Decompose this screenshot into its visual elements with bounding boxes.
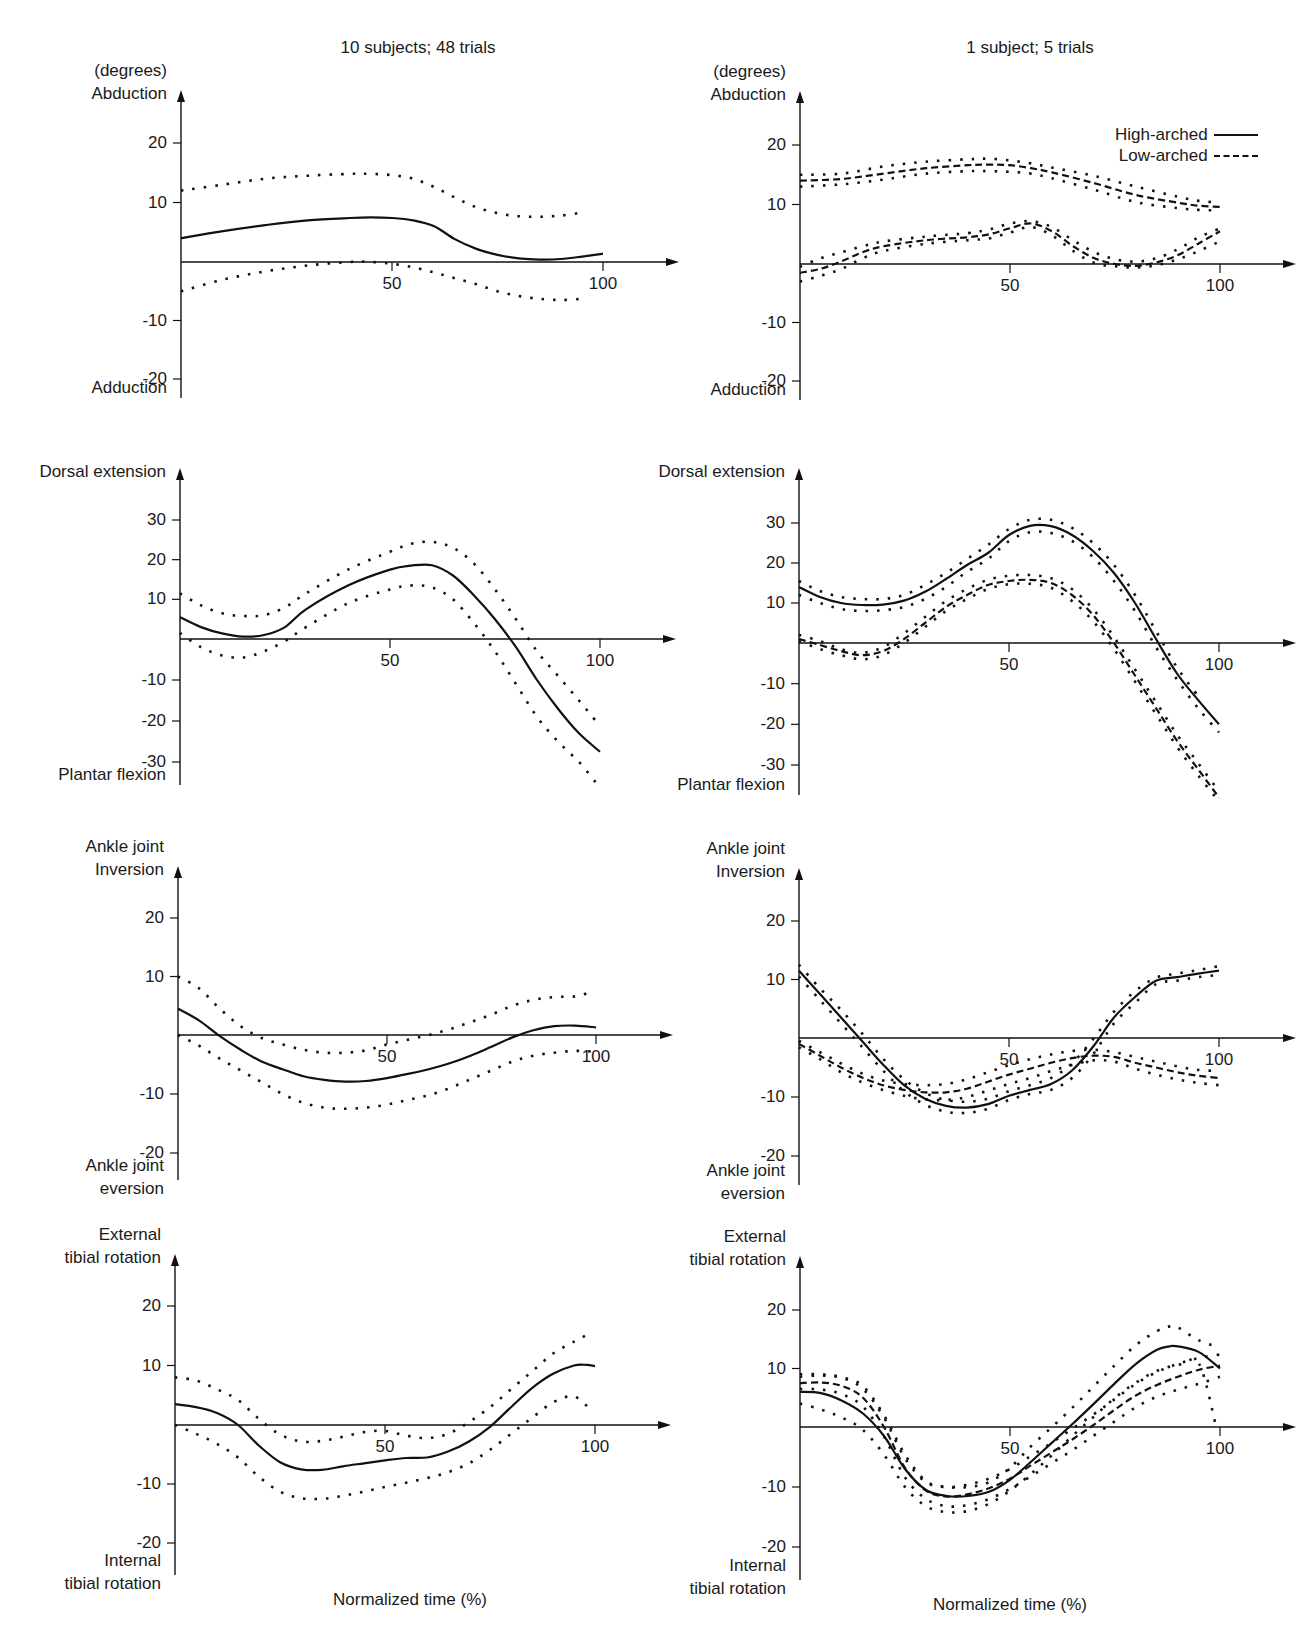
- y-tick-label: 10: [148, 193, 167, 213]
- y-axis-label-bottom: Plantar flexion: [677, 773, 785, 796]
- series--1-sd: [180, 585, 596, 782]
- y-axis-label-top: (degrees) Abduction: [710, 60, 786, 106]
- y-axis-label-bottom: Adduction: [710, 378, 786, 401]
- x-axis-arrow-icon: [660, 1031, 673, 1039]
- y-axis-arrow-icon: [796, 1256, 804, 1268]
- y-tick-label: -10: [761, 1477, 786, 1497]
- y-tick-label: 10: [142, 1356, 161, 1376]
- chart-left-1: [173, 90, 679, 398]
- y-tick-label: 10: [147, 589, 166, 609]
- y-axis-label-top: Ankle joint Inversion: [86, 835, 164, 881]
- y-axis-arrow-icon: [796, 91, 804, 103]
- y-axis-arrow-icon: [176, 468, 184, 480]
- series-lower-band-sd: [800, 221, 1220, 267]
- x-axis-arrow-icon: [666, 258, 679, 266]
- y-tick-label: 30: [766, 513, 785, 533]
- y-tick-label: -10: [139, 1084, 164, 1104]
- series-low-arched-sd: [800, 1355, 1220, 1488]
- series-high-arched-sd: [799, 531, 1219, 732]
- x-tick-label: 50: [1001, 276, 1020, 296]
- y-tick-label: 20: [142, 1296, 161, 1316]
- y-tick-label: 20: [766, 553, 785, 573]
- y-tick-label: -20: [141, 711, 166, 731]
- series-upper-band-sd: [800, 171, 1220, 210]
- x-tick-label: 100: [581, 1437, 609, 1457]
- y-tick-label: 10: [767, 195, 786, 215]
- chart-left-4: [167, 1254, 671, 1575]
- y-tick-label: 10: [766, 593, 785, 613]
- y-axis-label-top: Dorsal extension: [39, 460, 166, 483]
- y-tick-label: -30: [760, 755, 785, 775]
- x-tick-label: 100: [1206, 1439, 1234, 1459]
- x-tick-label: 100: [1205, 1050, 1233, 1070]
- y-axis-label-bottom: Internal tibial rotation: [690, 1554, 786, 1600]
- chart-right-1: [792, 91, 1296, 400]
- plot-canvas: [0, 0, 1308, 1629]
- y-axis-label-bottom: Plantar flexion: [58, 763, 166, 786]
- x-axis-arrow-icon: [658, 1421, 671, 1429]
- chart-left-2: [172, 468, 676, 785]
- y-axis-label-top: Dorsal extension: [658, 460, 785, 483]
- y-axis-label-top: Ankle joint Inversion: [707, 837, 785, 883]
- y-tick-label: 20: [145, 908, 164, 928]
- series-upper-band-mean: [800, 165, 1220, 207]
- y-tick-label: 20: [767, 1300, 786, 1320]
- y-tick-label: 20: [147, 550, 166, 570]
- y-tick-label: -20: [760, 714, 785, 734]
- series-high-arched-mean: [800, 1346, 1220, 1497]
- chart-right-4: [792, 1256, 1296, 1580]
- y-tick-label: -10: [136, 1474, 161, 1494]
- figure: 10 subjects; 48 trials 1 subject; 5 tria…: [0, 0, 1308, 1629]
- x-axis-arrow-icon: [1283, 639, 1296, 647]
- x-axis-arrow-icon: [663, 635, 676, 643]
- series-mean: [178, 1009, 596, 1082]
- y-tick-label: 10: [767, 1359, 786, 1379]
- x-tick-label: 50: [376, 1437, 395, 1457]
- y-tick-label: -10: [142, 311, 167, 331]
- y-tick-label: -10: [141, 670, 166, 690]
- y-axis-arrow-icon: [177, 90, 185, 102]
- chart-right-2: [791, 468, 1296, 802]
- x-tick-label: 100: [1206, 276, 1234, 296]
- y-axis-label-top: External tibial rotation: [65, 1223, 161, 1269]
- y-axis-arrow-icon: [795, 868, 803, 880]
- y-tick-label: 10: [145, 967, 164, 987]
- y-axis-label-bottom: Adduction: [91, 376, 167, 399]
- chart-right-3: [791, 868, 1296, 1185]
- series-mean: [181, 217, 603, 259]
- x-tick-label: 50: [1000, 1050, 1019, 1070]
- y-tick-label: 30: [147, 510, 166, 530]
- series-low-arched-mean: [799, 580, 1219, 798]
- x-tick-label: 100: [586, 651, 614, 671]
- x-tick-label: 100: [582, 1047, 610, 1067]
- x-tick-label: 100: [589, 274, 617, 294]
- y-axis-label-top: External tibial rotation: [690, 1225, 786, 1271]
- y-tick-label: 20: [148, 133, 167, 153]
- chart-left-3: [170, 866, 673, 1180]
- x-tick-label: 50: [383, 274, 402, 294]
- y-axis-arrow-icon: [174, 866, 182, 878]
- series--1-sd: [181, 262, 582, 300]
- x-axis-arrow-icon: [1283, 260, 1296, 268]
- x-tick-label: 100: [1205, 655, 1233, 675]
- y-axis-label-bottom: Ankle joint eversion: [707, 1159, 785, 1205]
- series-low-arched-sd: [799, 575, 1219, 792]
- y-tick-label: 20: [766, 911, 785, 931]
- x-axis-arrow-icon: [1283, 1423, 1296, 1431]
- series-lower-band-sd: [800, 227, 1220, 282]
- y-tick-label: 10: [766, 970, 785, 990]
- y-tick-label: 20: [767, 135, 786, 155]
- y-axis-label-bottom: Internal tibial rotation: [65, 1549, 161, 1595]
- x-tick-label: 50: [378, 1047, 397, 1067]
- series-low-arched-sd: [799, 583, 1219, 801]
- series--1-sd: [180, 542, 596, 721]
- y-tick-label: -10: [760, 1087, 785, 1107]
- series--1-sd: [181, 174, 582, 217]
- x-axis-arrow-icon: [1283, 1034, 1296, 1042]
- y-axis-label-bottom: Ankle joint eversion: [86, 1154, 164, 1200]
- series--1-sd: [178, 977, 592, 1054]
- y-tick-label: -10: [761, 313, 786, 333]
- series-high-arched-mean: [799, 525, 1219, 724]
- y-axis-arrow-icon: [171, 1254, 179, 1266]
- y-tick-label: -10: [760, 674, 785, 694]
